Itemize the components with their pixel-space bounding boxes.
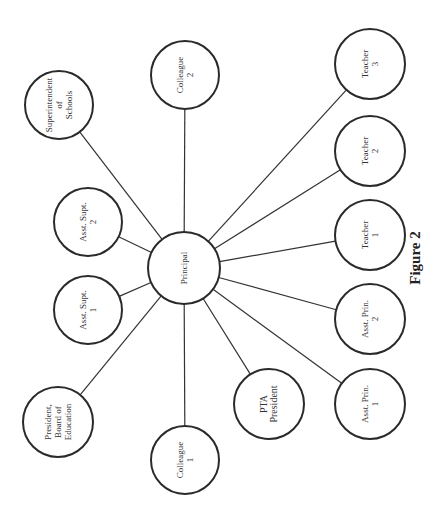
node-label: Principal: [179, 251, 189, 284]
edge-principal-asst-supt-2: [119, 237, 152, 253]
node-colleague-2: Colleague2: [151, 41, 219, 109]
node-superintendent: SuperintendentofSchools: [25, 71, 93, 139]
node-teacher-2: Teacher2: [335, 116, 405, 186]
edge-principal-colleague-2: [184, 109, 185, 232]
figure-caption: Figure 2: [407, 231, 423, 284]
node-asst-supt-1: Asst. Supt.1: [54, 276, 122, 344]
org-diagram: SuperintendentofSchoolsColleague2Teacher…: [0, 0, 444, 532]
node-colleague-1: Colleague1: [151, 426, 219, 494]
edge-principal-pta-president: [203, 299, 250, 375]
node-label: President,Board ofEducation: [43, 403, 73, 440]
node-teacher-1: Teacher1: [335, 200, 405, 270]
center-node-principal: Principal: [148, 232, 220, 304]
node-teacher-3: Teacher3: [335, 29, 405, 99]
node-principal: Principal: [148, 232, 220, 304]
edge-principal-colleague-1: [184, 304, 185, 426]
edge-principal-asst-supt-1: [119, 282, 151, 296]
node-asst-supt-2: Asst. Supt.2: [54, 188, 122, 256]
node-asst-prin-2: Asst. Prin.2: [335, 284, 405, 354]
edge-principal-asst-prin-2: [219, 278, 337, 310]
node-president-board: President,Board ofEducation: [23, 387, 93, 457]
edge-principal-teacher-3: [208, 90, 346, 242]
edge-principal-teacher-2: [214, 170, 340, 249]
node-pta-president: PTAPresident: [234, 369, 304, 439]
edge-principal-teacher-1: [219, 241, 335, 262]
node-asst-prin-1: Asst. Prin.1: [335, 369, 405, 439]
